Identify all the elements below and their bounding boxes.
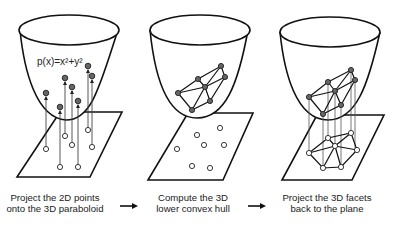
caption-step-1: Project the 2D points onto the 3D parabo… [0,192,110,214]
delaunay-triangulation [309,133,357,168]
caption-step-2-line-1: Compute the 3D [148,192,238,203]
right-arrow-1 [120,203,138,209]
plane-points-2 [174,125,226,170]
panel-3-project-facets-back [280,17,384,180]
paraboloid-3 [280,17,380,120]
plane-2 [148,113,253,180]
paraboloid-1 [19,15,119,120]
right-arrow-2 [248,203,266,209]
paraboloid-2 [150,15,250,118]
plane-points [43,127,94,169]
panel-2-lower-convex-hull [148,15,253,180]
caption-step-3-line-2: back to the plane [274,203,380,214]
caption-step-1-line-1: Project the 2D points [0,192,110,203]
caption-step-2: Compute the 3D lower convex hull [148,192,238,214]
caption-step-3-line-1: Project the 3D facets [274,192,380,203]
caption-step-2-line-2: lower convex hull [148,203,238,214]
paraboloid-equation: p(x)=x²+y² [37,56,83,67]
caption-step-3: Project the 3D facets back to the plane [274,192,380,214]
caption-step-1-line-2: onto the 3D paraboloid [0,203,110,214]
panel-1-project-to-paraboloid: p(x)=x²+y² [17,15,122,177]
